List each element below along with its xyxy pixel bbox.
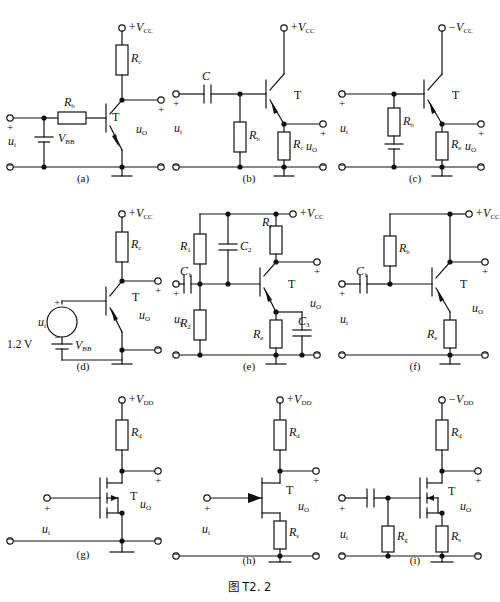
input-label-c: ui xyxy=(340,122,348,134)
circuit-h: +VDD Rd Rs T ui uO + − + − (h) xyxy=(166,378,332,564)
input-plus-e: + xyxy=(173,287,179,299)
output-plus-f: + xyxy=(482,265,488,277)
component-label-rg-i: Rg xyxy=(397,530,408,542)
component-label-c2-e: C2 xyxy=(240,240,252,252)
circuit-a: +VCC Rc Rb VBB T ui uO + − + − (a) xyxy=(0,4,166,190)
caption-e: (e) xyxy=(166,360,332,372)
output-label-h: uO xyxy=(298,500,309,512)
circuit-b: +VCC C Rb Rc T ui uO + − + − (b) xyxy=(166,4,332,190)
output-plus-b: + xyxy=(320,127,326,139)
output-minus-f: − xyxy=(482,347,488,359)
component-label-re-e: Re xyxy=(253,328,263,340)
component-label-c-b: C xyxy=(202,70,210,82)
output-label-b: uO xyxy=(306,140,317,152)
transistor-label-i: T xyxy=(448,485,455,497)
supply-label-g: +VDD xyxy=(128,393,154,405)
input-minus-f: − xyxy=(339,347,345,359)
component-label-rs-h: Rs xyxy=(289,526,299,538)
component-label-rc-a: Rc xyxy=(131,52,141,64)
supply-label-i: −VDD xyxy=(448,393,474,405)
output-minus-c: − xyxy=(478,159,484,171)
circuit-c: −VCC Rb Re T ui uO + − + − (c) xyxy=(332,4,498,190)
component-label-re-f: Re xyxy=(427,328,437,340)
caption-g: (g) xyxy=(0,548,166,560)
supply-label-d: +VCC xyxy=(128,207,153,219)
input-label-h: ui xyxy=(202,523,210,535)
input-minus-g: − xyxy=(7,533,13,545)
transistor-label-b: T xyxy=(294,89,301,101)
output-plus-c: + xyxy=(478,127,484,139)
caption-a: (a) xyxy=(0,172,166,184)
component-label-rb-a: Rb xyxy=(64,96,75,108)
supply-label-b: +VCC xyxy=(290,21,315,33)
component-label-rb-b: Rb xyxy=(249,129,260,141)
figure-caption: 图 T2. 2 xyxy=(0,578,499,594)
output-label-g: uO xyxy=(140,498,151,510)
output-minus-a: − xyxy=(158,159,164,171)
component-label-rc-e: Rc xyxy=(262,216,272,228)
output-plus-d: + xyxy=(155,284,161,296)
output-label-a: uO xyxy=(136,123,147,135)
output-label-e: uO xyxy=(310,297,321,309)
circuit-g: +VDD Rd T ui uO + − + − (g) xyxy=(0,378,166,564)
input-label-b: ui xyxy=(174,122,182,134)
component-label-rc-d: Rc xyxy=(131,238,141,250)
input-plus-h: + xyxy=(204,502,210,514)
transistor-label-c: T xyxy=(452,89,459,101)
output-minus-d: − xyxy=(155,342,161,354)
input-plus-c: + xyxy=(339,97,345,109)
input-minus-a: − xyxy=(7,159,13,171)
component-label-rd-i: Rd xyxy=(451,426,462,438)
output-label-c: uO xyxy=(465,140,476,152)
output-minus-b: − xyxy=(320,159,326,171)
output-plus-h: + xyxy=(313,474,319,486)
component-label-rd-g: Rd xyxy=(131,426,142,438)
output-plus-g: + xyxy=(155,474,161,486)
component-label-vbb-d: VBB xyxy=(75,339,92,351)
circuit-f: +VCC Rb Re C1 T ui uO + − + − (f) xyxy=(332,192,498,378)
circuit-i: −VDD Rd Rg Rs T ui uO + − + − (i) xyxy=(332,378,498,564)
output-plus-e: + xyxy=(314,265,320,277)
output-minus-e: − xyxy=(314,347,320,359)
caption-d: (d) xyxy=(0,360,166,372)
input-plus-f: + xyxy=(339,287,345,299)
component-label-c1-e: C1 xyxy=(180,265,192,277)
component-label-rs-i: Rs xyxy=(451,530,461,542)
component-label-rc-b: Rc xyxy=(293,138,303,150)
input-label-g: ui xyxy=(42,523,50,535)
output-label-d: uO xyxy=(139,309,150,321)
input-minus-c: − xyxy=(339,159,345,171)
component-label-rd-h: Rd xyxy=(289,426,300,438)
caption-b: (b) xyxy=(166,172,332,184)
component-label-vbb-a: VBB xyxy=(58,132,75,144)
transistor-label-h: T xyxy=(286,484,293,496)
supply-label-e: +VCC xyxy=(299,207,324,219)
input-minus-b: − xyxy=(173,159,179,171)
component-label-c3-e: C3 xyxy=(298,315,310,327)
circuit-e: +VCC R1 R2 Rc Re C1 C2 C3 T ui uO + − + … xyxy=(166,192,332,378)
input-plus-i: + xyxy=(339,502,345,514)
source-plus-d: + xyxy=(54,296,60,308)
component-label-r1-e: R1 xyxy=(180,240,191,252)
circuit-f-schematic xyxy=(332,192,499,372)
input-label-i: ui xyxy=(340,528,348,540)
output-label-f: uO xyxy=(472,302,483,314)
input-label-e: ui xyxy=(174,313,182,325)
component-label-c1-f: C1 xyxy=(356,265,368,277)
transistor-label-d: T xyxy=(132,291,139,303)
transistor-label-e: T xyxy=(288,278,295,290)
caption-f: (f) xyxy=(332,360,498,372)
input-label-a: ui xyxy=(8,135,16,147)
output-label-i: uO xyxy=(460,500,471,512)
caption-i: (i) xyxy=(332,554,498,566)
circuit-d: +VCC Rc VBB 1.2 V ui T uO + − + − (d) xyxy=(0,192,166,378)
source-minus-d: − xyxy=(54,331,60,343)
transistor-label-g: T xyxy=(130,490,137,502)
input-plus-a: + xyxy=(7,121,13,133)
input-label-f: ui xyxy=(340,313,348,325)
supply-label-h: +VDD xyxy=(286,393,312,405)
component-label-rb-f: Rb xyxy=(399,242,410,254)
supply-label-a: +VCC xyxy=(128,21,153,33)
source-value-d: 1.2 V xyxy=(7,339,32,351)
